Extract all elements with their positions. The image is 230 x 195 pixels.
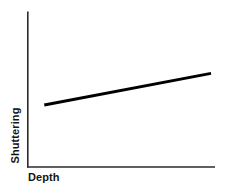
chart-plot-area	[0, 0, 230, 195]
chart-container: Depth Shuttering	[0, 0, 230, 195]
data-series-line	[44, 73, 211, 105]
x-axis-label: Depth	[28, 172, 60, 183]
